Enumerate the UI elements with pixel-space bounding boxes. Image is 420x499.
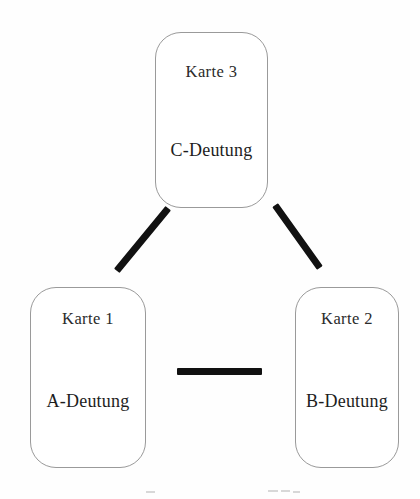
connector-karte3-karte1 [114, 206, 171, 273]
card-body: C-Deutung [171, 140, 253, 161]
connector-karte3-karte2 [272, 203, 322, 270]
scan-artifact [268, 490, 278, 492]
card-title: Karte 1 [62, 309, 114, 329]
card-triangle-diagram: Karte 3 C-Deutung Karte 1 A-Deutung Kart… [0, 0, 420, 499]
card-body: A-Deutung [47, 391, 130, 412]
card-title: Karte 3 [186, 62, 238, 82]
card-body: B-Deutung [306, 391, 388, 412]
scan-artifact [281, 490, 290, 492]
card-karte-2[interactable]: Karte 2 B-Deutung [295, 287, 399, 468]
connector-karte1-karte2 [177, 368, 262, 375]
scan-artifact [146, 491, 155, 493]
card-title: Karte 2 [321, 309, 373, 329]
scan-artifact [293, 491, 300, 493]
card-karte-1[interactable]: Karte 1 A-Deutung [30, 287, 146, 468]
card-karte-3[interactable]: Karte 3 C-Deutung [155, 32, 268, 208]
